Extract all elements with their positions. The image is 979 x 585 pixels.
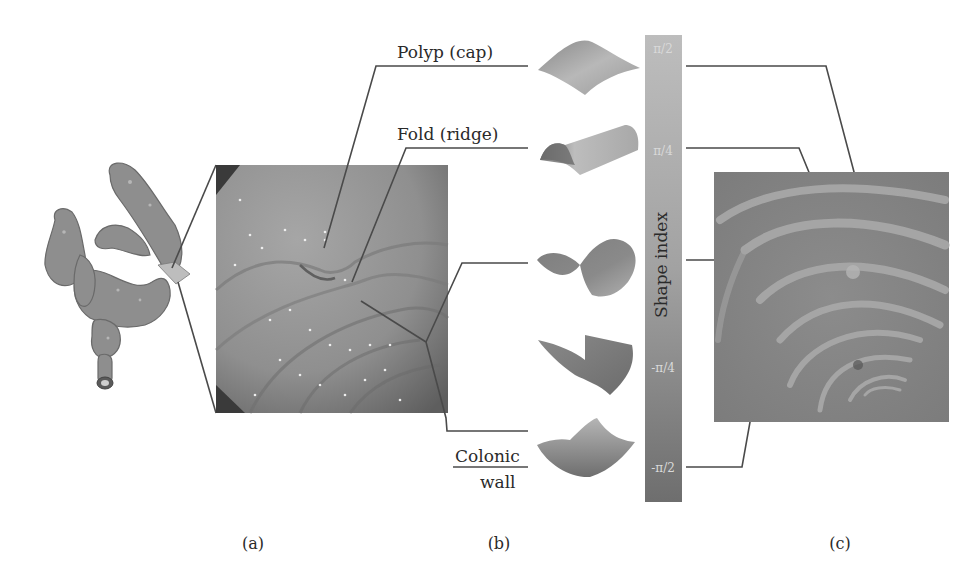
label-fold: Fold (ridge): [397, 124, 498, 144]
zoom-line-bottom: [178, 282, 216, 413]
label-polyp: Polyp (cap): [397, 42, 493, 62]
figure-canvas: Polyp (cap) Fold (ridge) Colonic wall π/…: [0, 0, 979, 585]
tick-neg-pi-2: -π/2: [651, 461, 675, 475]
shape-index-map: [714, 172, 949, 422]
zoom-line-top: [172, 165, 216, 268]
caption-b: (b): [488, 534, 511, 553]
tick-pi-2: π/2: [653, 42, 673, 56]
cup-shape: [537, 418, 635, 477]
colorbar-title: Shape index: [651, 212, 671, 318]
cap-shape: [538, 41, 640, 95]
colon-3d-model: [45, 163, 190, 389]
label-wall: wall: [480, 472, 516, 492]
caption-c: (c): [829, 534, 850, 553]
rut-shape: [538, 335, 633, 395]
endoscopic-image: [216, 165, 448, 413]
tick-pi-4: π/4: [653, 144, 673, 158]
label-colonic: Colonic: [455, 446, 520, 466]
shape-index-colorbar: π/2 π/4 -π/4 -π/2 Shape index: [645, 35, 682, 502]
shape-primitives: [537, 41, 640, 477]
caption-a: (a): [242, 534, 264, 553]
saddle-shape: [537, 239, 636, 297]
tick-neg-pi-4: -π/4: [651, 361, 675, 375]
